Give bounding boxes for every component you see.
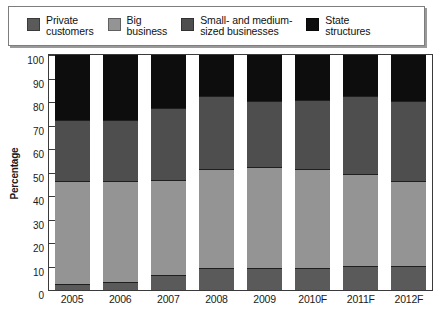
- y-axis-tick-label: 0: [18, 290, 44, 301]
- bar-2007[interactable]: [151, 55, 186, 290]
- x-axis-tick-label: 2010F: [290, 293, 336, 305]
- bar-segment[interactable]: [151, 109, 186, 181]
- y-axis-tick-mark: [49, 290, 55, 291]
- legend-swatch-icon: [181, 18, 194, 31]
- bar-segment[interactable]: [151, 55, 186, 109]
- bar-segment[interactable]: [295, 101, 330, 170]
- legend-item-small-and-medium-sized-businesses: Small- and medium- sized businesses: [181, 15, 292, 38]
- y-axis-tick-mark: [49, 102, 55, 103]
- bar-2012f[interactable]: [391, 55, 426, 290]
- bar-2006[interactable]: [103, 55, 138, 290]
- bar-segment[interactable]: [247, 102, 282, 168]
- bar-segment[interactable]: [247, 269, 282, 290]
- bar-segment[interactable]: [295, 170, 330, 269]
- bar-segment[interactable]: [295, 55, 330, 101]
- bar-segment[interactable]: [199, 170, 234, 269]
- y-axis-tick-mark: [49, 55, 55, 56]
- legend-item-label: Private customers: [46, 15, 94, 38]
- x-axis-tick-label: 2007: [145, 293, 191, 305]
- y-axis-tick-mark: [49, 220, 55, 221]
- legend-swatch-icon: [27, 18, 40, 31]
- y-axis-tick-mark: [49, 126, 55, 127]
- y-axis-tick-mark: [49, 79, 55, 80]
- bar-segment[interactable]: [199, 55, 234, 97]
- legend-item-label: Small- and medium- sized businesses: [200, 15, 292, 38]
- legend-item-big-business: Big business: [108, 15, 168, 38]
- bar-segment[interactable]: [391, 102, 426, 182]
- bar-segment[interactable]: [55, 182, 90, 285]
- y-axis-tick-label: 90: [18, 78, 44, 89]
- x-axis-tick-label: 2005: [49, 293, 95, 305]
- bar-segment[interactable]: [103, 283, 138, 290]
- bar-segment[interactable]: [103, 55, 138, 121]
- plot-area: [48, 54, 433, 291]
- stacked-bar-chart: Percentage 1009080706050403020100 200520…: [0, 48, 441, 319]
- bar-segment[interactable]: [199, 269, 234, 290]
- bar-segment[interactable]: [247, 168, 282, 269]
- x-axis-tick-label: 2012F: [386, 293, 432, 305]
- bar-segment[interactable]: [247, 55, 282, 102]
- y-axis-tick-label: 50: [18, 172, 44, 183]
- bar-segment[interactable]: [391, 267, 426, 291]
- bar-segment[interactable]: [151, 276, 186, 290]
- y-axis-tick-mark: [49, 243, 55, 244]
- bar-segment[interactable]: [343, 97, 378, 175]
- bar-segment[interactable]: [343, 267, 378, 291]
- x-axis-tick-label: 2011F: [338, 293, 384, 305]
- bar-segment[interactable]: [199, 97, 234, 170]
- y-axis-tick-label: 70: [18, 125, 44, 136]
- x-axis-tick-label: 2008: [193, 293, 239, 305]
- bar-2005[interactable]: [55, 55, 90, 290]
- y-axis-tick-mark: [49, 173, 55, 174]
- bar-segment[interactable]: [343, 175, 378, 267]
- bar-segment[interactable]: [151, 181, 186, 276]
- chart-legend: Private customers Big business Small- an…: [8, 6, 425, 46]
- y-axis-tick-mark: [49, 267, 55, 268]
- y-axis-tick-label: 100: [18, 55, 44, 66]
- legend-item-label: Big business: [127, 15, 168, 38]
- x-axis-tick-labels: 200520062007200820092010F2011F2012F: [48, 293, 433, 315]
- bar-segment[interactable]: [391, 182, 426, 267]
- y-axis-tick-labels: 1009080706050403020100: [18, 54, 44, 291]
- bar-segment[interactable]: [103, 121, 138, 182]
- legend-item-label: State structures: [325, 15, 370, 38]
- bar-segment[interactable]: [391, 55, 426, 102]
- y-axis-tick-label: 10: [18, 266, 44, 277]
- legend-swatch-icon: [306, 18, 319, 31]
- legend-swatch-icon: [108, 18, 121, 31]
- y-axis-tick-label: 40: [18, 196, 44, 207]
- y-axis-tick-label: 20: [18, 243, 44, 254]
- bar-2009[interactable]: [247, 55, 282, 290]
- y-axis-tick-label: 80: [18, 102, 44, 113]
- y-axis-tick-mark: [49, 196, 55, 197]
- bar-2010f[interactable]: [295, 55, 330, 290]
- bar-segment[interactable]: [103, 182, 138, 283]
- legend-item-state-structures: State structures: [306, 15, 370, 38]
- bars-container: [49, 55, 432, 290]
- x-axis-tick-label: 2009: [242, 293, 288, 305]
- bar-segment[interactable]: [55, 121, 90, 182]
- x-axis-tick-label: 2006: [97, 293, 143, 305]
- bar-segment[interactable]: [55, 285, 90, 290]
- y-axis-tick-mark: [49, 149, 55, 150]
- bar-2008[interactable]: [199, 55, 234, 290]
- bar-segment[interactable]: [55, 55, 90, 121]
- legend-item-private-customers: Private customers: [27, 15, 94, 38]
- y-axis-tick-label: 30: [18, 219, 44, 230]
- bar-segment[interactable]: [295, 269, 330, 290]
- y-axis-tick-label: 60: [18, 149, 44, 160]
- bar-2011f[interactable]: [343, 55, 378, 290]
- bar-segment[interactable]: [343, 55, 378, 97]
